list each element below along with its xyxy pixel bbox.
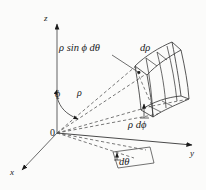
axis-y	[57, 133, 192, 145]
axis-x	[22, 133, 57, 170]
axis-label-z: z	[44, 14, 48, 23]
radial-rays	[57, 66, 158, 158]
rho-d-phi-label: ρ dϕ	[128, 120, 146, 131]
spherical-coordinates-figure: z y x 0 ϕ ρ ρ sin ϕ dθ dρ ρ dϕ dθ	[0, 0, 206, 190]
d-theta-label: dθ	[119, 157, 129, 168]
axis-label-x: x	[10, 168, 14, 177]
phi-angle-label: ϕ	[55, 89, 60, 99]
origin-label: 0	[50, 128, 55, 138]
rho-sin-phi-dtheta-label: ρ sin ϕ dθ	[59, 43, 100, 54]
figure-canvas	[0, 0, 206, 190]
d-rho-label: dρ	[140, 43, 150, 54]
axis-label-y: y	[190, 149, 194, 158]
rho-length-label: ρ	[77, 88, 82, 98]
